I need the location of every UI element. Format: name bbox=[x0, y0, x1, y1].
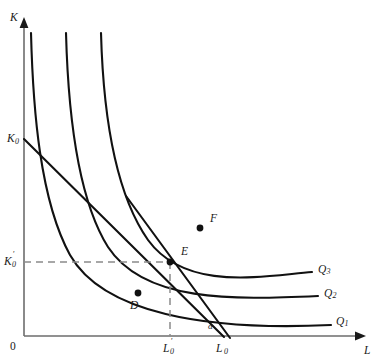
x-axis-arrow-icon bbox=[355, 332, 366, 341]
tick-label-k0prime-subscript: 0 bbox=[12, 260, 16, 269]
point-label-e: E bbox=[180, 245, 188, 257]
isocost-line-flat bbox=[24, 139, 224, 337]
angle-label-alpha: α bbox=[208, 321, 213, 331]
isoquant-isocost-chart: K L 0 K 0 K ′ 0 L ′ 0 bbox=[0, 0, 381, 364]
curve-label-q1-subscript: 1 bbox=[345, 319, 349, 328]
tick-label-l0prime-mark: ′ bbox=[171, 337, 173, 346]
axes-group bbox=[20, 17, 366, 340]
curve-labels-group: Q 3 Q 2 Q 1 bbox=[318, 263, 349, 328]
y-axis-arrow-icon bbox=[20, 17, 29, 28]
tick-label-k0: K 0 bbox=[6, 132, 19, 146]
point-label-f: F bbox=[209, 212, 218, 224]
y-axis-label: K bbox=[9, 11, 19, 23]
point-dot-e bbox=[167, 259, 174, 266]
curve-label-q2: Q 2 bbox=[324, 287, 337, 300]
guide-lines-group bbox=[24, 262, 170, 336]
tick-label-k0-subscript: 0 bbox=[15, 137, 19, 146]
point-dot-f bbox=[197, 225, 204, 232]
figure-caption bbox=[22, 352, 322, 363]
origin-label: 0 bbox=[10, 340, 16, 352]
figure-root: K L 0 K 0 K ′ 0 L ′ 0 bbox=[0, 0, 381, 364]
tick-label-k0prime-mark: ′ bbox=[13, 250, 15, 259]
curve-label-q1: Q 1 bbox=[336, 315, 349, 328]
isocost-lines-group bbox=[24, 139, 230, 338]
point-label-d: D bbox=[129, 299, 139, 311]
curve-label-q2-subscript: 2 bbox=[333, 291, 337, 300]
tick-label-k0-prime: K ′ 0 bbox=[3, 250, 16, 269]
curve-label-q3: Q 3 bbox=[318, 263, 331, 276]
point-dot-d bbox=[135, 290, 142, 297]
x-axis-label: L bbox=[363, 344, 370, 356]
isoquant-curve-q3 bbox=[101, 33, 312, 277]
curve-label-q3-subscript: 3 bbox=[326, 267, 331, 276]
isoquant-curves-group bbox=[31, 33, 331, 326]
isoquant-curve-q1 bbox=[31, 33, 331, 326]
